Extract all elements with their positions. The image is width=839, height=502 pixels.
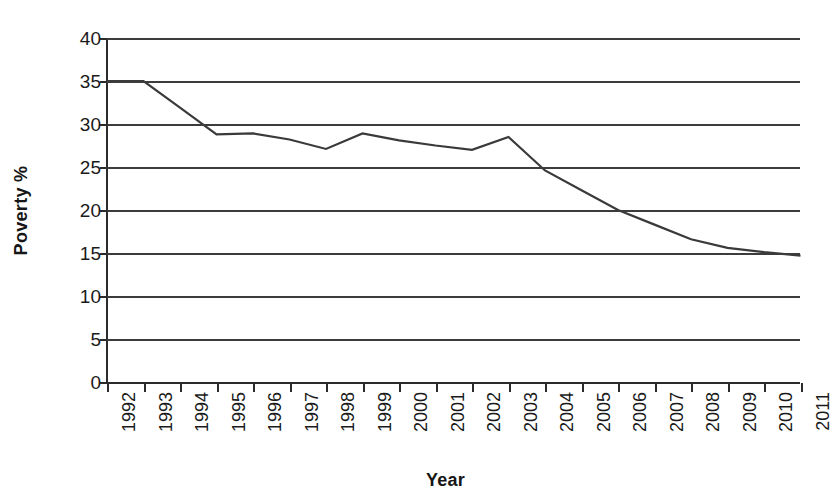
x-axis-tick-labels: 1992199319941995199619971998199920002001… <box>0 392 839 462</box>
x-tick-mark-2010 <box>764 383 766 392</box>
x-tick-label-2008: 2008 <box>702 392 724 462</box>
x-tick-mark-1998 <box>326 383 328 392</box>
x-tick-label-2001: 2001 <box>447 392 469 462</box>
x-tick-label-1994: 1994 <box>191 392 213 462</box>
x-tick-label-1992: 1992 <box>118 392 140 462</box>
x-tick-label-2010: 2010 <box>775 392 797 462</box>
x-tick-mark-2002 <box>472 383 474 392</box>
x-tick-mark-1992 <box>107 383 109 392</box>
x-tick-label-1996: 1996 <box>264 392 286 462</box>
x-tick-mark-2000 <box>399 383 401 392</box>
x-tick-mark-2006 <box>618 383 620 392</box>
x-tick-mark-1993 <box>144 383 146 392</box>
x-tick-mark-2011 <box>801 383 803 392</box>
x-axis-title-label: Year <box>426 470 465 491</box>
x-axis-title: Year <box>0 470 839 491</box>
x-tick-mark-2004 <box>545 383 547 392</box>
x-tick-mark-1996 <box>253 383 255 392</box>
x-tick-mark-2008 <box>691 383 693 392</box>
x-tick-mark-2007 <box>655 383 657 392</box>
x-tick-label-1999: 1999 <box>374 392 396 462</box>
x-tick-label-1997: 1997 <box>301 392 323 462</box>
x-tick-label-1998: 1998 <box>337 392 359 462</box>
x-tick-label-2000: 2000 <box>410 392 432 462</box>
x-tick-label-2007: 2007 <box>666 392 688 462</box>
x-tick-mark-1994 <box>180 383 182 392</box>
x-tick-label-1993: 1993 <box>155 392 177 462</box>
x-tick-label-2006: 2006 <box>629 392 651 462</box>
poverty-line-chart: Poverty % 0510152025303540 1992199319941… <box>0 0 839 502</box>
x-tick-mark-2005 <box>582 383 584 392</box>
x-tick-label-2005: 2005 <box>593 392 615 462</box>
x-tick-label-2009: 2009 <box>739 392 761 462</box>
x-tick-mark-1995 <box>217 383 219 392</box>
x-tick-label-2004: 2004 <box>556 392 578 462</box>
x-tick-label-2011: 2011 <box>812 392 834 462</box>
x-tick-mark-2001 <box>436 383 438 392</box>
x-tick-label-2002: 2002 <box>483 392 505 462</box>
x-tick-mark-1999 <box>363 383 365 392</box>
x-tick-mark-2003 <box>509 383 511 392</box>
x-tick-mark-1997 <box>290 383 292 392</box>
x-tick-label-1995: 1995 <box>228 392 250 462</box>
x-tick-label-2003: 2003 <box>520 392 542 462</box>
x-tick-mark-2009 <box>728 383 730 392</box>
